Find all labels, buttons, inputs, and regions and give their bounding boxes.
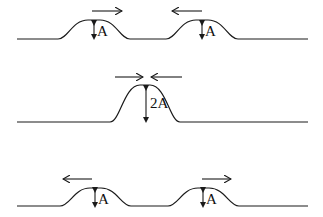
amplitude-label: A	[98, 191, 109, 207]
amplitude-label: A	[97, 23, 108, 39]
amplitude-label: 2A	[150, 95, 169, 111]
stage-overlap: 2A	[17, 77, 308, 122]
amplitude-label: A	[206, 191, 217, 207]
stage-after: A A	[17, 179, 308, 207]
stage-before: A A	[17, 11, 308, 39]
wave-line-before	[17, 20, 308, 39]
amplitude-label: A	[205, 23, 216, 39]
superposition-diagram: A A 2A A A	[0, 0, 323, 217]
wave-line-after	[17, 188, 308, 206]
